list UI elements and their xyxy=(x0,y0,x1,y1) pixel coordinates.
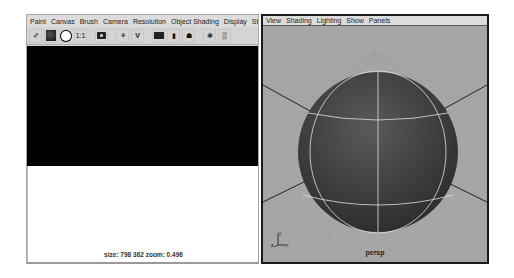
menu-display[interactable]: Display xyxy=(224,18,247,25)
redraw-icon[interactable]: ☗ xyxy=(182,29,195,43)
white-sphere-icon[interactable] xyxy=(59,29,72,43)
menu-camera[interactable]: Camera xyxy=(103,18,128,25)
brush-paint-icon[interactable]: ⚘ xyxy=(116,29,129,43)
snapshot-camera-icon[interactable] xyxy=(95,29,108,43)
one-to-one-icon[interactable]: 1:1 xyxy=(74,29,87,43)
menu-brush[interactable]: Brush xyxy=(80,18,98,25)
axis-indicator: y z x xyxy=(271,230,291,250)
camera-label: persp xyxy=(263,249,487,256)
canvas-status: size: 798 362 zoom: 0.496 xyxy=(28,251,259,258)
menu-paint[interactable]: Paint xyxy=(30,18,46,25)
menu-object-shading[interactable]: Object Shading xyxy=(171,18,219,25)
svg-text:x: x xyxy=(286,242,289,248)
scene-render xyxy=(263,27,487,262)
menu-shading[interactable]: Shading xyxy=(286,17,312,24)
paint-toolbar: ✐ 1:1 ⚘ V ▮ ☗ ❃ ▒ xyxy=(27,27,258,45)
svg-text:y: y xyxy=(279,230,282,236)
menu-view[interactable]: View xyxy=(266,17,281,24)
paint-canvas[interactable] xyxy=(27,46,258,166)
menu-lighting[interactable]: Lighting xyxy=(317,17,342,24)
viewport-panel: View Shading Lighting Show Panels xyxy=(261,14,489,264)
paint-effects-panel: Paint Canvas Brush Camera Resolution Obj… xyxy=(26,14,259,264)
svg-text:z: z xyxy=(271,242,274,248)
menu-panels[interactable]: Panels xyxy=(369,17,390,24)
perspective-viewport[interactable]: y z x persp xyxy=(263,27,487,262)
menu-resolution[interactable]: Resolution xyxy=(133,18,166,25)
open-folder-icon[interactable] xyxy=(152,29,165,43)
color-swatch-icon[interactable] xyxy=(44,29,57,43)
eraser-icon[interactable]: ✐ xyxy=(29,29,42,43)
canvas-background[interactable]: size: 798 362 zoom: 0.496 xyxy=(27,166,258,262)
brush-pair-icon[interactable]: V xyxy=(131,29,144,43)
flip-icon[interactable]: ▮ xyxy=(167,29,180,43)
menu-show[interactable]: Show xyxy=(346,17,364,24)
viewport-menubar: View Shading Lighting Show Panels xyxy=(263,16,487,26)
texture-icon[interactable]: ❃ xyxy=(203,29,216,43)
menu-stroke-refresh[interactable]: Stroke R xyxy=(252,18,258,25)
wrap-icon[interactable]: ▒ xyxy=(218,29,231,43)
menu-canvas[interactable]: Canvas xyxy=(51,18,75,25)
paint-menubar: Paint Canvas Brush Camera Resolution Obj… xyxy=(27,15,258,27)
